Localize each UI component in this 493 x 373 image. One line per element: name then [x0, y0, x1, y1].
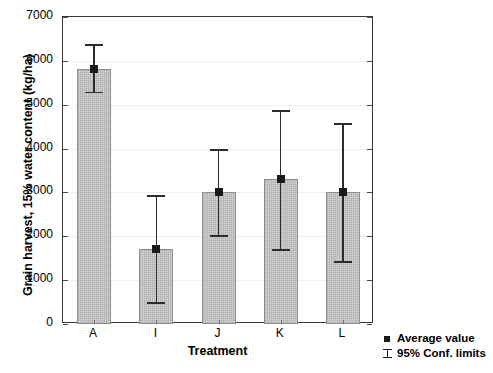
- y-tick-label: 6000: [0, 52, 53, 66]
- legend-label-average: Average value: [397, 331, 475, 346]
- y-tick-mark: [63, 236, 68, 237]
- legend-item-average: Average value: [382, 331, 486, 346]
- y-tick-label: 0: [0, 315, 53, 329]
- error-bar-bracket-icon: [382, 348, 393, 359]
- y-tick-mark: [63, 324, 68, 325]
- x-tick-mark: [94, 320, 95, 324]
- y-tick-mark: [367, 236, 372, 237]
- mean-marker-k: [277, 175, 285, 183]
- x-tick-mark: [343, 320, 344, 324]
- y-tick-mark: [63, 17, 68, 18]
- error-bar-cap-upper: [272, 110, 290, 112]
- error-bar-cap-lower: [147, 302, 165, 304]
- mean-marker-l: [339, 188, 347, 196]
- error-bar-cap-lower: [272, 249, 290, 251]
- x-tick-mark: [219, 320, 220, 324]
- error-bar-cap-lower: [210, 235, 228, 237]
- x-tick-label-i: I: [130, 326, 180, 340]
- bar-a: [77, 69, 111, 324]
- error-bar-cap-upper: [85, 44, 103, 46]
- y-tick-label: 1000: [0, 271, 53, 285]
- error-bar-cap-lower: [334, 261, 352, 263]
- x-axis-title: Treatment: [62, 344, 373, 358]
- legend-label-conf-limits: 95% Conf. limits: [397, 346, 486, 361]
- y-tick-mark: [367, 17, 372, 18]
- y-tick-mark: [63, 280, 68, 281]
- y-tick-label: 4000: [0, 140, 53, 154]
- y-tick-mark: [367, 192, 372, 193]
- x-tick-mark: [156, 320, 157, 324]
- mean-marker-a: [90, 65, 98, 73]
- y-tick-mark: [367, 149, 372, 150]
- x-tick-label-l: L: [317, 326, 367, 340]
- legend-item-conf-limits: 95% Conf. limits: [382, 346, 486, 361]
- y-tick-mark: [63, 61, 68, 62]
- x-tick-mark: [281, 320, 282, 324]
- y-tick-mark: [63, 149, 68, 150]
- y-tick-label: 5000: [0, 96, 53, 110]
- y-tick-mark: [63, 192, 68, 193]
- mean-marker-i: [152, 245, 160, 253]
- x-tick-label-j: J: [193, 326, 243, 340]
- chart-figure: Grain harvest, 15% water content (kg/ha)…: [0, 0, 493, 373]
- error-bar-cap-upper: [210, 149, 228, 151]
- chart-legend: Average value 95% Conf. limits: [382, 331, 486, 361]
- y-tick-mark: [367, 280, 372, 281]
- x-tick-label-k: K: [255, 326, 305, 340]
- y-tick-mark: [63, 105, 68, 106]
- y-tick-label: 2000: [0, 227, 53, 241]
- y-tick-label: 3000: [0, 183, 53, 197]
- y-tick-mark: [367, 324, 372, 325]
- y-tick-mark: [367, 105, 372, 106]
- error-bar-cap-upper: [334, 123, 352, 125]
- mean-marker-j: [215, 188, 223, 196]
- gridline: [63, 61, 372, 62]
- x-tick-label-a: A: [68, 326, 118, 340]
- error-bar-cap-lower: [85, 92, 103, 94]
- y-tick-mark: [367, 61, 372, 62]
- error-bar-cap-upper: [147, 195, 165, 197]
- y-tick-label: 7000: [0, 8, 53, 22]
- filled-square-marker-icon: [382, 333, 393, 344]
- plot-area: [62, 16, 373, 323]
